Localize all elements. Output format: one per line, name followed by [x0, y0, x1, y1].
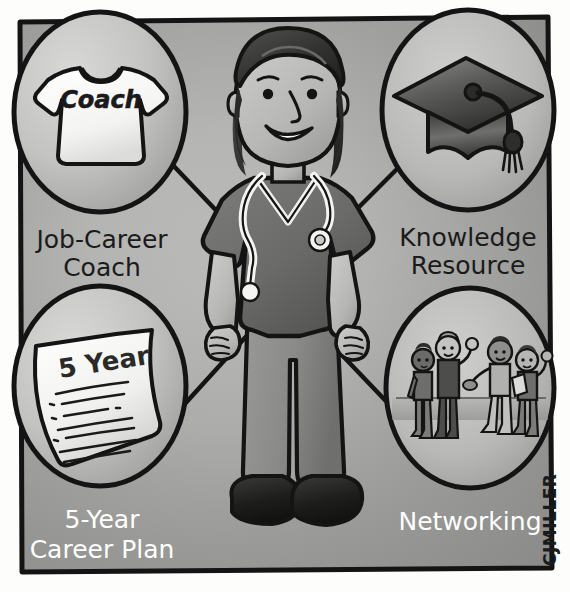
figure-shoe-right: [292, 476, 362, 525]
bubble-job-career-coach[interactable]: Coach Job-Career Coach: [14, 12, 186, 282]
figure-hand-left: [206, 326, 240, 360]
figure-eye-right: [307, 89, 317, 99]
artist-signature: CJMILLER: [540, 474, 560, 566]
figure-eye-left: [263, 89, 273, 99]
figure-shoe-left: [231, 476, 300, 524]
figure-hand-right: [336, 326, 368, 360]
bubble-knowledge-resource[interactable]: Knowledge Resource: [382, 10, 554, 280]
illustration-canvas: Coach Job-Career Coach Knowledge Resourc…: [0, 0, 570, 592]
cartoon-illustration: Coach Job-Career Coach Knowledge Resourc…: [0, 0, 570, 592]
figure-arm-left: [206, 252, 238, 336]
bubble-label-coach-line2: Coach: [63, 253, 141, 282]
tshirt-coach-text: Coach: [60, 86, 142, 114]
bubble-label-knowledge-line1: Knowledge: [399, 223, 536, 252]
bubble-label-knowledge-line2: Resource: [411, 251, 526, 280]
bubble-label-networking: Networking: [398, 507, 541, 536]
bubble-label-plan-line2: Career Plan: [30, 535, 175, 564]
bubble-label-coach-line1: Job-Career: [34, 225, 168, 254]
bubble-label-plan-line1: 5-Year: [65, 505, 141, 534]
person-4-folder: [512, 374, 527, 396]
